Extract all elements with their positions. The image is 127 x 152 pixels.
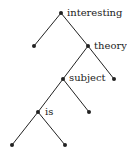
node-is (36, 110, 40, 114)
label-is: is (45, 107, 53, 117)
label-interesting: interesting (67, 8, 122, 18)
tree-diagram: interesting theory subject is (0, 0, 127, 152)
leaf-node (10, 143, 14, 147)
node-theory (86, 44, 90, 48)
node-subject (61, 77, 65, 81)
leaf-node (112, 77, 116, 81)
leaf-node (63, 143, 67, 147)
label-theory: theory (94, 41, 127, 51)
label-subject: subject (69, 73, 106, 83)
leaf-node (32, 44, 36, 48)
leaf-node (87, 110, 91, 114)
node-root (59, 11, 63, 15)
tree-edges (0, 0, 127, 152)
